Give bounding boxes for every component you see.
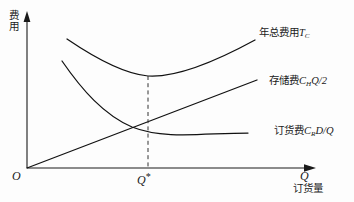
- optimal-quantity-label: Q*: [137, 172, 151, 186]
- total-cost-subscript: C: [305, 32, 310, 40]
- ordering-cost-label-cn: 订货费: [274, 125, 304, 136]
- total-cost-label-cn: 年总费用: [259, 27, 299, 38]
- holding-cost-label-cn: 存储费: [269, 75, 299, 86]
- holding-cost-line: [27, 80, 257, 168]
- optimal-quantity-star: *: [146, 171, 151, 182]
- total-cost-curve: [67, 39, 255, 76]
- ordering-cost-series-label: 订货费CRD/Q: [274, 126, 333, 138]
- y-axis: [24, 11, 31, 168]
- optimal-quantity-symbol: Q: [137, 173, 146, 187]
- ordering-cost-curve: [62, 61, 248, 135]
- holding-cost-symbol: C: [299, 75, 306, 86]
- holding-cost-expression: Q/2: [311, 75, 327, 86]
- y-axis-label: 费用: [7, 10, 18, 32]
- x-axis-symbol: Q: [300, 170, 309, 182]
- ordering-cost-symbol: C: [304, 125, 311, 136]
- origin-label: O: [12, 170, 21, 182]
- x-axis-label: 订货量: [293, 184, 323, 195]
- x-axis: [27, 164, 316, 172]
- total-cost-series-label: 年总费用TC: [259, 28, 310, 40]
- eoq-cost-chart: 费用 O Q* Q 订货量 年总费用TC 存储费CHQ/2 订货费CRD/Q: [0, 0, 354, 202]
- holding-cost-series-label: 存储费CHQ/2: [269, 76, 327, 88]
- ordering-cost-expression: D/Q: [315, 125, 333, 136]
- y-axis-arrowhead: [24, 11, 31, 22]
